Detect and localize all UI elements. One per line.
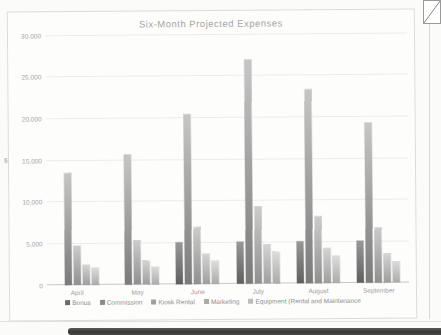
legend-swatch-icon xyxy=(65,300,70,305)
x-tick-label-september: September xyxy=(349,286,409,293)
bar-commission-july xyxy=(244,60,253,284)
y-tick-label: 0 xyxy=(14,282,43,289)
x-tick-label-july: July xyxy=(228,287,288,294)
bar-marketing-april xyxy=(82,265,89,285)
bar-bonus-september xyxy=(357,241,364,283)
y-tick-label: 15,000 xyxy=(13,157,42,164)
legend-label: Equipment (Rental and Maintenance xyxy=(255,297,361,305)
bar-kiosk-may xyxy=(134,240,141,284)
bar-group-june xyxy=(175,114,219,284)
plot-area: $ 05,00010,00015,00020,00025,00030,000Ap… xyxy=(45,32,409,285)
bar-bonus-july xyxy=(236,242,243,284)
y-tick-label: 30,000 xyxy=(12,32,41,39)
bar-kiosk-july xyxy=(254,207,262,284)
x-tick-label-april: April xyxy=(47,289,107,296)
bar-marketing-may xyxy=(143,260,150,284)
bar-marketing-september xyxy=(384,253,391,282)
scan-bottom-rule xyxy=(0,321,441,322)
legend-item-kiosk: Kiosk Rental xyxy=(151,298,195,305)
x-tick-label-august: August xyxy=(288,287,348,294)
gridline xyxy=(45,74,407,78)
gridline xyxy=(46,115,408,119)
bar-commission-april xyxy=(64,173,72,285)
bar-group-april xyxy=(55,173,99,285)
gridline xyxy=(46,157,408,161)
bar-marketing-june xyxy=(203,254,210,284)
scan-dark-band xyxy=(68,328,441,335)
bar-equipment-june xyxy=(212,261,219,284)
bar-bonus-august xyxy=(297,242,304,284)
bar-group-may xyxy=(115,154,159,284)
legend-item-bonus: Bonus xyxy=(65,299,90,306)
bar-commission-june xyxy=(184,114,192,284)
bar-equipment-july xyxy=(272,251,279,284)
legend-swatch-icon xyxy=(248,299,253,304)
y-axis-title: $ xyxy=(4,157,8,164)
bar-group-august xyxy=(295,89,340,283)
bar-commission-may xyxy=(124,155,132,285)
bar-commission-august xyxy=(304,89,313,283)
legend-item-marketing: Marketing xyxy=(204,298,240,305)
chart-frame: Six-Month Projected Expenses $ 05,00010,… xyxy=(7,8,417,321)
legend-swatch-icon xyxy=(151,299,156,304)
bar-equipment-may xyxy=(152,266,159,284)
y-tick-label: 20,000 xyxy=(13,115,42,122)
bar-kiosk-august xyxy=(314,216,322,283)
bar-equipment-august xyxy=(333,256,340,283)
gridline xyxy=(45,32,407,36)
legend-swatch-icon xyxy=(100,300,105,305)
bar-marketing-august xyxy=(324,248,331,283)
legend-label: Marketing xyxy=(211,298,240,305)
y-tick-label: 25,000 xyxy=(12,73,41,80)
bar-kiosk-september xyxy=(375,228,382,283)
bar-kiosk-april xyxy=(73,246,80,285)
legend-item-commission: Commission xyxy=(100,299,143,306)
gridline xyxy=(46,199,408,203)
x-axis-line xyxy=(47,281,409,285)
legend-label: Commission xyxy=(107,299,143,306)
x-tick-label-june: June xyxy=(168,288,228,295)
page-corner-fold-icon xyxy=(423,0,441,24)
legend-label: Bonus xyxy=(72,299,90,306)
x-tick-label-may: May xyxy=(107,288,167,295)
legend-item-equipment: Equipment (Rental and Maintenance xyxy=(248,297,361,305)
legend-label: Kiosk Rental xyxy=(158,298,195,305)
y-tick-label: 5,000 xyxy=(14,240,43,247)
bar-group-september xyxy=(356,123,400,283)
bar-bonus-june xyxy=(176,243,183,285)
bar-kiosk-june xyxy=(194,227,201,285)
gridline xyxy=(47,240,409,244)
bar-commission-september xyxy=(365,123,373,283)
chart-title: Six-Month Projected Expenses xyxy=(8,16,414,30)
bar-marketing-july xyxy=(263,244,270,283)
y-tick-label: 10,000 xyxy=(13,198,42,205)
legend-swatch-icon xyxy=(204,299,209,304)
bar-equipment-april xyxy=(91,268,98,285)
page-edge-line xyxy=(429,23,430,319)
chart-legend: BonusCommissionKiosk RentalMarketingEqui… xyxy=(10,296,416,306)
bar-equipment-september xyxy=(393,262,400,283)
bar-group-july xyxy=(235,59,280,283)
